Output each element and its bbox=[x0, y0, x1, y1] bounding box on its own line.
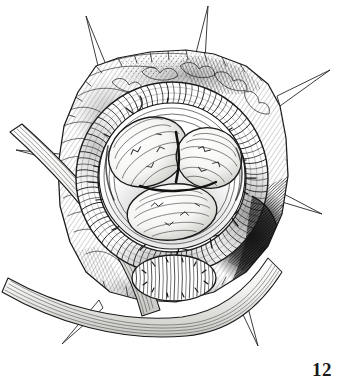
figure-number: 12 bbox=[312, 360, 332, 379]
figure-page: 12 Pen-and-ink surgical exposure: a ribb… bbox=[0, 0, 340, 391]
anatomical-illustration bbox=[0, 0, 340, 391]
inferior-ribbed-lobe bbox=[132, 255, 216, 301]
